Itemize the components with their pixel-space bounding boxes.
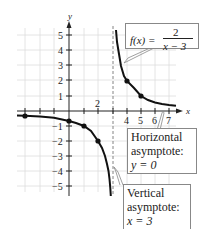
x-axis-arrow-icon (176, 109, 183, 114)
label-line: asymptote: (131, 144, 193, 158)
tick-label: 5 (138, 115, 143, 126)
label-line: Horizontal (131, 130, 193, 144)
tick-label: −5 (52, 181, 63, 192)
tick-label: 5 (58, 30, 63, 41)
tick-label: 2 (95, 98, 100, 109)
vertical-asymptote-label: Vertical asymptote: x = 3 (123, 184, 191, 229)
y-axis-label: y (67, 11, 72, 21)
tick-label: −2 (52, 136, 63, 147)
tick-label: 6 (152, 115, 157, 126)
horizontal-asymptote-label: Horizontal asymptote: y = 0 (127, 128, 197, 174)
label-line: asymptote: (127, 200, 187, 214)
x-axis-label: x (185, 106, 190, 116)
tick-label: 2 (58, 75, 63, 86)
tick-label: 3 (58, 60, 63, 71)
tick-label: 4 (58, 45, 63, 56)
function-label-box: f(x) = 2 x − 3 (125, 23, 199, 49)
tick-label: −4 (52, 166, 63, 177)
tick-label: 1 (58, 91, 63, 102)
label-line: x = 3 (127, 214, 187, 228)
tick-label: 4 (124, 115, 129, 126)
function-denominator: x − 3 (163, 39, 186, 53)
label-line: Vertical (127, 186, 187, 200)
tick-label: 7 (166, 115, 171, 126)
tick-label: −1 (52, 121, 63, 132)
function-numerator: 2 (173, 25, 179, 39)
function-name: f(x) = (130, 33, 155, 47)
tick-label: −3 (52, 151, 63, 162)
label-line: y = 0 (131, 158, 193, 172)
y-axis-arrow-icon (67, 21, 72, 28)
